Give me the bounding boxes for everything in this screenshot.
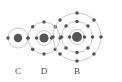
atom-c — [6, 28, 29, 48]
electron-dot — [31, 25, 34, 28]
atom-label-b: B — [74, 66, 80, 76]
electron-dot — [91, 35, 95, 39]
electron-dot — [75, 11, 79, 15]
electron-dot — [75, 59, 79, 63]
nucleus — [39, 33, 48, 42]
electron-dot — [86, 46, 90, 50]
atomic-structure-figure: C D B — [0, 0, 122, 82]
electron-dot — [42, 52, 45, 55]
electron-dot — [92, 18, 96, 22]
atom-label-d: D — [41, 66, 48, 76]
nucleus — [14, 34, 22, 42]
electron-dot — [51, 35, 55, 39]
electron-dot — [60, 35, 64, 39]
electron-dot — [99, 35, 103, 39]
electron-dot — [75, 20, 79, 24]
electron-dot — [68, 35, 72, 39]
electron-dot — [75, 51, 79, 55]
electron-dot — [6, 36, 9, 39]
electron-dot — [58, 18, 62, 22]
electron-dot — [64, 24, 68, 28]
electron-dot — [86, 24, 90, 28]
electron-dot — [92, 52, 96, 56]
electron-dot — [83, 35, 87, 39]
electron-dot — [31, 48, 34, 51]
electron-dot — [35, 36, 38, 39]
electron-dot — [26, 36, 29, 39]
electron-dot — [42, 20, 45, 23]
atom-label-c: C — [15, 66, 21, 76]
nucleus — [72, 32, 82, 42]
electron-dot — [58, 52, 62, 56]
electron-dot — [64, 46, 68, 50]
